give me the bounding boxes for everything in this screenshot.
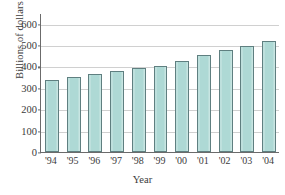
x-tick-label: '97 bbox=[110, 156, 122, 166]
bar bbox=[197, 55, 211, 152]
bar bbox=[262, 41, 276, 152]
x-tick-label: '94 bbox=[45, 156, 57, 166]
x-tick-label: '00 bbox=[175, 156, 187, 166]
y-tick-label: 400 bbox=[21, 62, 37, 73]
bar bbox=[132, 68, 146, 152]
y-tick-label: 500 bbox=[21, 41, 37, 52]
bar bbox=[175, 61, 189, 152]
bar bbox=[45, 80, 59, 152]
y-tick-label: 200 bbox=[21, 105, 37, 116]
x-tick-label: '03 bbox=[241, 156, 253, 166]
bar-series bbox=[41, 14, 279, 152]
bar bbox=[110, 71, 124, 152]
x-axis-title: Year bbox=[0, 174, 285, 185]
bar bbox=[67, 77, 81, 152]
x-tick-label: '01 bbox=[197, 156, 209, 166]
y-tick-label: 600 bbox=[21, 19, 37, 30]
y-tick-mark bbox=[38, 152, 41, 153]
bar-chart-figure: Billions of dollars 0100200300400500600 … bbox=[0, 0, 285, 195]
plot-area: 0100200300400500600 bbox=[40, 14, 279, 153]
bar bbox=[154, 66, 168, 152]
x-tick-label: '99 bbox=[154, 156, 166, 166]
bar bbox=[219, 50, 233, 152]
y-tick-label: 300 bbox=[21, 84, 37, 95]
y-tick-label: 100 bbox=[21, 126, 37, 137]
x-tick-label: '04 bbox=[262, 156, 274, 166]
bar bbox=[88, 74, 102, 152]
x-tick-label: '95 bbox=[67, 156, 79, 166]
x-tick-label: '02 bbox=[219, 156, 231, 166]
bar bbox=[240, 46, 254, 152]
y-tick-label: 0 bbox=[32, 148, 37, 159]
x-tick-label: '98 bbox=[132, 156, 144, 166]
x-tick-label: '96 bbox=[88, 156, 100, 166]
